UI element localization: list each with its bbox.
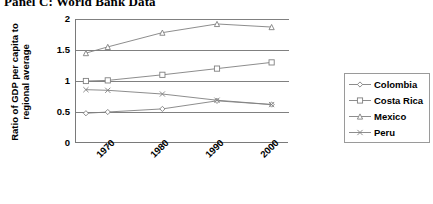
legend-label: Costa Rica (374, 95, 423, 106)
y-tick-label: 2 (36, 13, 70, 24)
chart-panel: Panel C: World Bank Data Ratio of GDP pe… (0, 0, 433, 204)
chart-legend: ColombiaCosta RicaMexicoPeru (344, 73, 430, 143)
page-title: Panel C: World Bank Data (4, 0, 156, 10)
diamond-marker-icon (83, 111, 88, 116)
diamond-marker-icon (357, 82, 362, 87)
y-tick-label: 1.5 (36, 44, 70, 55)
diamond-marker-icon (348, 78, 372, 91)
series-line-costa-rica (86, 62, 272, 81)
legend-label: Mexico (374, 111, 406, 122)
square-marker-icon (83, 78, 88, 83)
square-marker-icon (160, 72, 165, 77)
diamond-marker-icon (105, 109, 110, 114)
y-tick-label: 0 (36, 137, 70, 148)
y-axis-title-label: Ratio of GDP per capita to regional aver… (9, 19, 31, 145)
diamond-marker-icon (160, 106, 165, 111)
y-axis-title: Ratio of GDP per capita to regional aver… (2, 18, 38, 146)
series-line-mexico (86, 24, 272, 53)
data-series-layer (75, 19, 288, 143)
cross-marker-icon (348, 126, 372, 139)
square-marker-icon (357, 98, 362, 103)
legend-label: Colombia (374, 79, 417, 90)
legend-item-colombia[interactable]: Colombia (348, 77, 430, 92)
triangle-marker-icon (348, 110, 372, 123)
legend-item-costa-rica[interactable]: Costa Rica (348, 93, 430, 108)
legend-item-peru[interactable]: Peru (348, 125, 430, 140)
triangle-marker-icon (83, 51, 88, 56)
square-marker-icon (348, 94, 372, 107)
y-tick-label: 1 (36, 75, 70, 86)
square-marker-icon (269, 60, 274, 65)
y-tick-label: 0.5 (36, 106, 70, 117)
series-line-peru (86, 90, 272, 105)
triangle-marker-icon (105, 44, 110, 49)
legend-label: Peru (374, 127, 395, 138)
square-marker-icon (105, 78, 110, 83)
square-marker-icon (214, 66, 219, 71)
legend-item-mexico[interactable]: Mexico (348, 109, 430, 124)
